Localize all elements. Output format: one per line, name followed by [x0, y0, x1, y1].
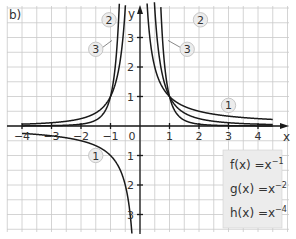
y-tick-label: 2 [127, 61, 134, 74]
curve-badge-1: 1 [221, 98, 235, 112]
legend: f(x) =x−1g(x) =x−2h(x) =x−4 [223, 150, 287, 228]
curve-badge-3: 3 [89, 42, 103, 56]
curve-badge-3: 3 [180, 42, 194, 56]
y-tick-label: 3 [127, 32, 134, 45]
svg-text:3: 3 [92, 43, 99, 56]
y-tick-label: 1 [127, 150, 134, 163]
x-axis-label: x [283, 130, 290, 144]
x-tick-label: −2 [73, 130, 89, 143]
curve-badge-2: 2 [193, 13, 207, 27]
curve-1 [147, 4, 273, 120]
panel-label: b) [9, 8, 21, 22]
origin-label: 0 [129, 130, 136, 143]
x-tick-label: −1 [102, 130, 118, 143]
curve-badge-2: 2 [102, 13, 116, 27]
y-tick-label: 3 [127, 209, 134, 222]
svg-text:3: 3 [184, 43, 191, 56]
x-tick-label: −3 [43, 130, 59, 143]
x-tick-label: −4 [14, 130, 30, 143]
curve-badge-1: 1 [89, 148, 103, 162]
svg-text:1: 1 [225, 99, 232, 112]
svg-text:2: 2 [197, 14, 204, 27]
curve-1 [22, 133, 132, 233]
y-axis-arrow-icon [137, 5, 143, 14]
y-tick-label: 1 [127, 91, 134, 104]
x-tick-label: 2 [196, 130, 203, 143]
y-axis-label: y [128, 7, 135, 21]
x-tick-label: 3 [225, 130, 232, 143]
x-tick-label: 4 [255, 130, 262, 143]
function-graph: xy −4−3−2−112340321123 112233 b) f(x) =x… [0, 0, 296, 239]
x-tick-label: 1 [166, 130, 173, 143]
svg-text:1: 1 [92, 150, 99, 163]
y-tick-label: 2 [127, 179, 134, 192]
svg-text:2: 2 [106, 14, 113, 27]
